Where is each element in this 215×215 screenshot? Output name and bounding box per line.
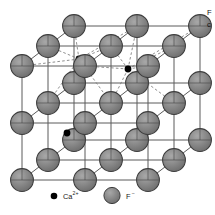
legend-item-anion: F −: [104, 187, 135, 203]
anion-sphere: [163, 35, 186, 58]
legend-anion-marker-icon: [104, 187, 120, 203]
anion-sphere: [11, 55, 34, 78]
anion-sphere: [126, 15, 149, 38]
cation-dot: [125, 66, 132, 73]
anion-sphere: [37, 35, 60, 58]
anion-sphere: [189, 129, 212, 152]
anion-sphere: [37, 92, 60, 115]
legend-anion-superscript: −: [132, 190, 135, 196]
caption-line-2: c: [207, 20, 211, 29]
legend-cation-superscript: 2+: [73, 190, 79, 196]
anion-sphere: [100, 92, 123, 115]
anion-sphere: [137, 169, 160, 192]
anion-sphere: [74, 169, 97, 192]
anion-sphere: [74, 112, 97, 135]
anion-sphere: [63, 15, 86, 38]
anion-sphere: [11, 169, 34, 192]
anion-sphere: [74, 55, 97, 78]
anion-layer-middle: [37, 35, 186, 172]
anion-sphere: [100, 35, 123, 58]
fluorite-lattice-diagram: F c Ca 2+ F −: [0, 0, 215, 215]
anion-sphere: [11, 112, 34, 135]
anion-sphere: [137, 112, 160, 135]
anion-sphere: [189, 72, 212, 95]
anion-sphere: [100, 149, 123, 172]
anion-sphere: [163, 149, 186, 172]
caption-line-1: F: [207, 8, 212, 17]
legend-anion-label: F: [126, 192, 131, 201]
anion-sphere: [37, 149, 60, 172]
legend: Ca 2+ F −: [51, 187, 135, 203]
figure-root: F c Ca 2+ F −: [0, 0, 215, 215]
anion-sphere: [163, 92, 186, 115]
anion-sphere: [137, 55, 160, 78]
cation-dot: [64, 130, 71, 137]
legend-cation-marker-icon: [51, 193, 58, 200]
legend-item-cation: Ca 2+: [51, 190, 79, 201]
